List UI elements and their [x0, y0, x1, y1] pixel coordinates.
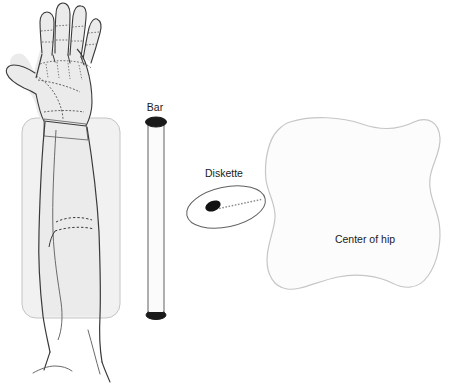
- hip-region-group: Center of hip: [266, 118, 441, 290]
- bar-top-cap: [146, 117, 167, 127]
- figure-root: Bar Diskette Center of hip: [0, 0, 464, 388]
- finger-ring: [70, 6, 86, 56]
- anatomical-diagram-svg: Bar Diskette Center of hip: [0, 0, 464, 388]
- strap-line-right-inner: [88, 330, 100, 374]
- hip-region-blob: [266, 118, 441, 290]
- finger-index: [40, 12, 54, 54]
- center-of-hip-label: Center of hip: [335, 233, 395, 245]
- bar-label: Bar: [147, 101, 164, 113]
- diskette-label: Diskette: [205, 167, 243, 179]
- diskette-group: Diskette: [183, 167, 270, 235]
- strap-line-right: [102, 362, 110, 382]
- finger-middle: [55, 3, 70, 54]
- strap-line-hook: [33, 366, 72, 373]
- calibration-bar-group: Bar: [146, 101, 167, 320]
- bar-body-mask-bottom: [149, 305, 163, 312]
- bar-body: [148, 122, 164, 314]
